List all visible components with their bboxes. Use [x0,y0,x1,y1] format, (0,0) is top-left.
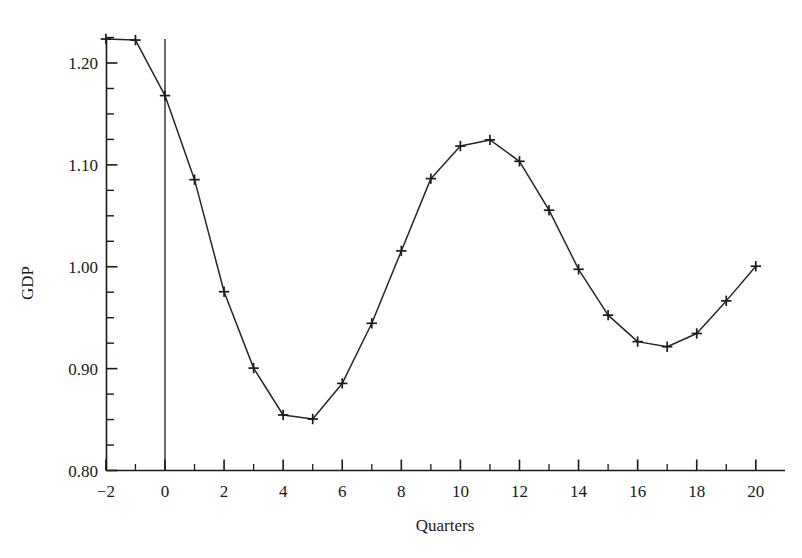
x-tick-label: 4 [279,482,288,501]
x-tick-label: 6 [338,482,347,501]
x-tick-label: 14 [570,482,588,501]
x-tick-label: 16 [629,482,646,501]
x-tick-label: 0 [161,482,170,501]
y-axis-title: GDP [18,266,37,300]
y-tick-label: 0.80 [68,462,98,481]
x-tick-label: 10 [452,482,469,501]
y-tick-label: 1.20 [68,54,98,73]
x-tick-label: 12 [511,482,528,501]
gdp-quarters-line-chart: 0.800.901.001.101.20 −202468101214161820… [0,0,802,558]
x-tick-label: −2 [97,482,115,501]
y-tick-label: 1.10 [68,156,98,175]
x-tick-label: 18 [688,482,705,501]
y-tick-label: 1.00 [68,258,98,277]
chart-background [0,0,802,558]
x-axis-title: Quarters [416,516,475,535]
y-tick-label: 0.90 [68,360,98,379]
x-tick-label: 2 [220,482,229,501]
x-tick-label: 8 [397,482,406,501]
x-tick-label: 20 [747,482,764,501]
chart-page: 0.800.901.001.101.20 −202468101214161820… [0,0,802,558]
